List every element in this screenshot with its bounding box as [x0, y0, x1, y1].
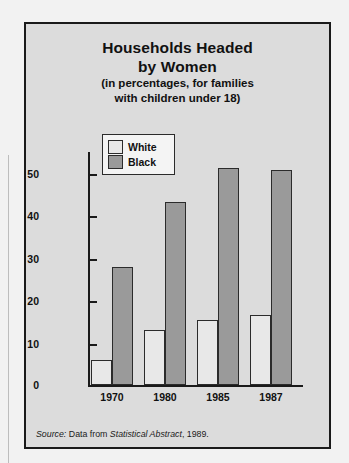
- y-tick-50: [90, 174, 97, 176]
- y-axis-line: [88, 152, 90, 387]
- plot-area: 50 40 30 20 10 0 1970 1980 1985 1987 Whi…: [26, 24, 329, 447]
- source-suffix: , 1989.: [182, 429, 209, 439]
- y-tick-label-10: 10: [0, 338, 39, 350]
- legend-label-white: White: [128, 141, 157, 153]
- legend-item-white: White: [108, 140, 169, 154]
- legend-swatch-black-icon: [108, 155, 123, 169]
- y-tick-40: [90, 216, 97, 218]
- bar-black-1980: [165, 202, 186, 385]
- x-tick-label-1985: 1985: [194, 391, 242, 403]
- legend-label-black: Black: [128, 156, 156, 168]
- page-left-rule: [8, 155, 9, 463]
- source-prefix: Source:: [36, 429, 66, 439]
- y-tick-label-0: 0: [0, 379, 39, 391]
- x-axis-line: [88, 385, 303, 387]
- bar-white-1980: [144, 330, 165, 385]
- y-tick-10: [90, 344, 97, 346]
- legend-item-black: Black: [108, 155, 169, 169]
- x-tick-label-1980: 1980: [141, 391, 189, 403]
- y-tick-30: [90, 259, 97, 261]
- source-text: Data from: [69, 429, 108, 439]
- figure-panel: Households Headed by Women (in percentag…: [24, 22, 331, 449]
- source-publication: Statistical Abstract: [110, 429, 182, 439]
- bar-black-1970: [112, 267, 133, 385]
- x-tick-label-1970: 1970: [88, 391, 136, 403]
- y-tick-label-40: 40: [0, 210, 39, 222]
- y-tick-label-30: 30: [0, 253, 39, 265]
- source-note: Source: Data from Statistical Abstract, …: [36, 429, 209, 439]
- legend-swatch-white-icon: [108, 140, 123, 154]
- bar-black-1987: [271, 170, 292, 385]
- chart-legend: White Black: [102, 134, 175, 175]
- bar-white-1985: [197, 320, 218, 385]
- bar-white-1987: [250, 315, 271, 385]
- y-tick-label-50: 50: [0, 168, 39, 180]
- y-tick-20: [90, 301, 97, 303]
- bar-black-1985: [218, 168, 239, 385]
- bar-white-1970: [91, 360, 112, 385]
- x-tick-label-1987: 1987: [247, 391, 295, 403]
- y-tick-label-20: 20: [0, 295, 39, 307]
